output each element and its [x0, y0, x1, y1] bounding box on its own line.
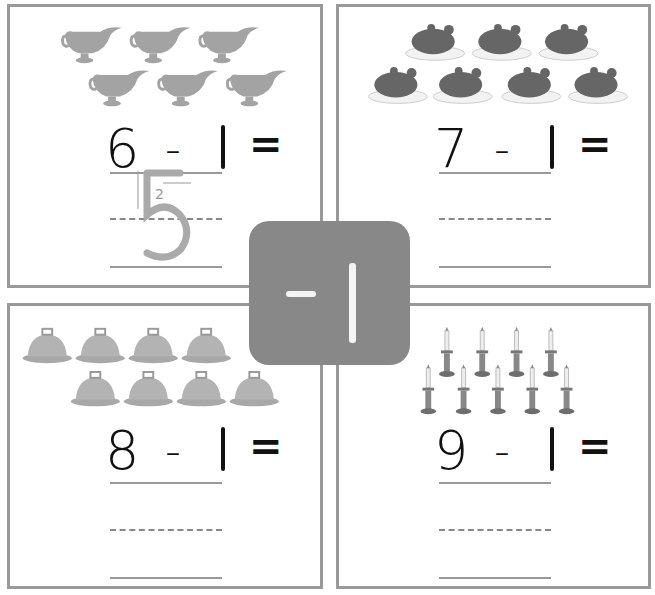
subtrahend-one	[550, 427, 554, 471]
answer-line-base[interactable]	[439, 577, 551, 579]
minus-sign: -	[494, 123, 510, 174]
equals-sign: =	[249, 121, 283, 167]
badge-digit-one	[349, 263, 356, 343]
equation: 8 - =	[105, 421, 305, 485]
equals-sign: =	[578, 423, 612, 469]
equals-sign: =	[249, 423, 283, 469]
answer-line-top[interactable]	[110, 482, 222, 484]
answer-line-base[interactable]	[110, 577, 222, 579]
answer-line-top[interactable]	[439, 172, 551, 174]
svg-text:2: 2	[155, 186, 164, 202]
minuend: 8	[105, 419, 139, 482]
minus-sign: -	[494, 425, 510, 476]
gravy-boat-icons	[10, 7, 320, 137]
answer-line-mid[interactable]	[110, 529, 222, 531]
subtrahend-one	[221, 125, 225, 169]
minus-sign: -	[165, 425, 181, 476]
answer-line-mid[interactable]	[439, 529, 551, 531]
subtrahend-one	[221, 427, 225, 471]
minuend: 7	[434, 117, 468, 180]
minus-one-badge	[249, 221, 410, 365]
trace-digit-5[interactable]: 2	[135, 165, 215, 270]
turkey-icons	[339, 7, 648, 137]
minuend: 9	[434, 419, 468, 482]
subtrahend-one	[550, 125, 554, 169]
answer-line-base[interactable]	[439, 266, 551, 268]
equals-sign: =	[578, 121, 612, 167]
badge-minus-sign	[286, 291, 316, 297]
equation: 9 - =	[434, 421, 634, 485]
answer-line-top[interactable]	[439, 482, 551, 484]
answer-line-mid[interactable]	[439, 218, 551, 220]
